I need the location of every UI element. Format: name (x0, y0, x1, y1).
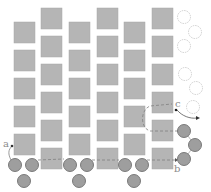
agent-circle (81, 159, 94, 172)
ghost-circle (187, 101, 200, 114)
obstacle-square (97, 8, 118, 29)
obstacle-square (14, 134, 35, 155)
obstacle-square (41, 36, 62, 57)
obstacle-square (152, 92, 173, 113)
agent-circle (64, 159, 77, 172)
ghost-circle (178, 11, 191, 24)
agent-circle (189, 139, 202, 152)
agent-circle (73, 175, 86, 188)
obstacle-square (97, 120, 118, 141)
obstacle-square (14, 78, 35, 99)
obstacle-square (124, 22, 145, 43)
diagram-canvas: a b c (0, 0, 211, 192)
agent-circle (178, 125, 191, 138)
path-c (177, 110, 197, 118)
obstacle-square (97, 148, 118, 169)
obstacle-square (69, 22, 90, 43)
ghost-circles (178, 11, 203, 114)
obstacle-square (124, 50, 145, 71)
label-a: a (3, 138, 9, 149)
obstacle-square (41, 120, 62, 141)
ghost-circle (189, 26, 202, 39)
obstacle-square (152, 120, 173, 141)
obstacle-square (152, 64, 173, 85)
ghost-circle (190, 82, 203, 95)
label-b: b (174, 163, 180, 174)
obstacle-squares (14, 8, 173, 169)
obstacle-square (41, 92, 62, 113)
path-a (9, 146, 12, 160)
path-c-arrow (196, 116, 200, 120)
agent-circle (26, 159, 39, 172)
obstacle-square (41, 8, 62, 29)
agent-circle (18, 175, 31, 188)
obstacle-square (41, 148, 62, 169)
obstacle-square (69, 106, 90, 127)
obstacle-square (69, 50, 90, 71)
path-a-endpoint (11, 145, 14, 148)
agent-circle (119, 159, 132, 172)
obstacle-square (14, 50, 35, 71)
ghost-circle (178, 40, 191, 53)
agent-circle (128, 175, 141, 188)
label-c: c (175, 98, 181, 109)
obstacle-square (41, 64, 62, 85)
obstacle-square (14, 106, 35, 127)
path-c-point (175, 109, 178, 112)
ghost-circle (179, 68, 192, 81)
obstacle-square (69, 134, 90, 155)
obstacle-square (152, 36, 173, 57)
obstacle-square (152, 8, 173, 29)
agent-circle (136, 159, 149, 172)
obstacle-square (14, 22, 35, 43)
obstacle-square (97, 36, 118, 57)
obstacle-square (69, 78, 90, 99)
obstacle-square (124, 106, 145, 127)
obstacle-square (97, 64, 118, 85)
agent-circle (9, 159, 22, 172)
obstacle-square (124, 78, 145, 99)
obstacle-square (97, 92, 118, 113)
obstacle-square (124, 134, 145, 155)
obstacle-square (152, 148, 173, 169)
